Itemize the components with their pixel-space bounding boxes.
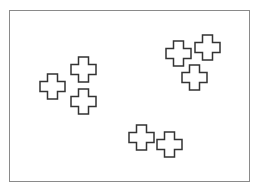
diagram-canvas bbox=[0, 0, 262, 190]
bottom-cluster bbox=[129, 125, 182, 157]
cross-shape bbox=[71, 57, 96, 82]
left-cluster bbox=[40, 57, 96, 114]
cross-shape bbox=[157, 132, 182, 157]
cross-shape bbox=[129, 125, 154, 150]
top-right-cluster bbox=[166, 35, 220, 90]
cross-shape bbox=[166, 41, 191, 66]
cross-shape bbox=[195, 35, 220, 60]
cross-shape bbox=[40, 74, 65, 99]
cross-shape bbox=[71, 89, 96, 114]
cross-shape bbox=[182, 65, 207, 90]
